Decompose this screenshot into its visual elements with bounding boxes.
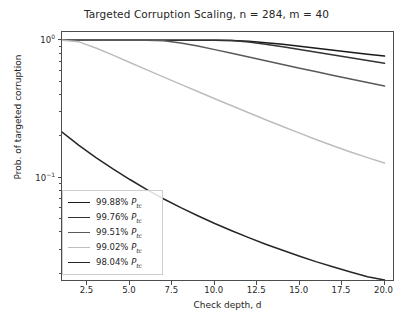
x-tick-label: 15.0 (279, 285, 319, 295)
x-tick-mark (86, 281, 87, 285)
chart-legend[interactable]: 99.88% Ptc99.76% Ptc99.51% Ptc99.02% Ptc… (62, 190, 163, 275)
legend-item[interactable]: 99.51% Ptc (68, 225, 157, 240)
x-tick-label: 12.5 (236, 285, 276, 295)
legend-item[interactable]: 99.02% Ptc (68, 240, 157, 255)
x-tick-label: 2.5 (66, 285, 106, 295)
x-tick-label: 20.0 (364, 285, 404, 295)
legend-color-swatch (68, 202, 90, 203)
legend-color-swatch (68, 232, 90, 233)
x-tick-mark (384, 281, 385, 285)
x-tick-label: 17.5 (321, 285, 361, 295)
x-tick-label: 10.0 (194, 285, 234, 295)
x-tick-mark (299, 281, 300, 285)
legend-label: 99.88% Ptc (96, 197, 142, 209)
legend-item[interactable]: 99.88% Ptc (68, 195, 157, 210)
legend-label: 99.76% Ptc (96, 212, 142, 224)
series-line (62, 40, 385, 86)
x-tick-mark (256, 281, 257, 285)
chart-figure: Targeted Corruption Scaling, n = 284, m … (0, 0, 413, 322)
x-tick-mark (171, 281, 172, 285)
legend-label: 99.02% Ptc (96, 242, 142, 254)
series-line (62, 40, 385, 163)
legend-color-swatch (68, 217, 90, 218)
y-tick-label: 10−1 (15, 171, 55, 183)
legend-label: 99.51% Ptc (96, 227, 142, 239)
legend-label: 98.04% Ptc (96, 257, 142, 269)
legend-item[interactable]: 99.76% Ptc (68, 210, 157, 225)
legend-color-swatch (68, 262, 90, 263)
x-tick-mark (214, 281, 215, 285)
legend-item[interactable]: 98.04% Ptc (68, 255, 157, 270)
x-tick-label: 5.0 (109, 285, 149, 295)
legend-color-swatch (68, 247, 90, 248)
x-tick-mark (341, 281, 342, 285)
chart-title: Targeted Corruption Scaling, n = 284, m … (0, 8, 413, 20)
x-axis-label: Check depth, d (61, 300, 394, 310)
x-tick-mark (129, 281, 130, 285)
x-tick-label: 7.5 (151, 285, 191, 295)
y-tick-label: 100 (15, 33, 55, 45)
